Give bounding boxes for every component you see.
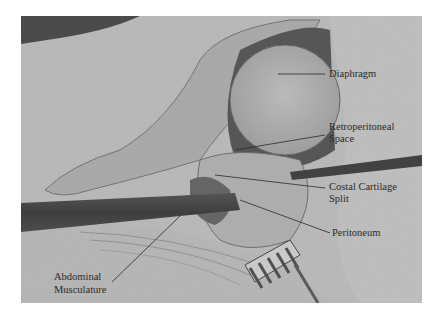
- surgical-figure: Diaphragm Retroperitoneal Space Costal C…: [0, 0, 442, 318]
- label-peritoneum: Peritoneum: [332, 227, 380, 238]
- label-diaphragm: Diaphragm: [329, 68, 376, 79]
- surgical-photo: [21, 16, 422, 303]
